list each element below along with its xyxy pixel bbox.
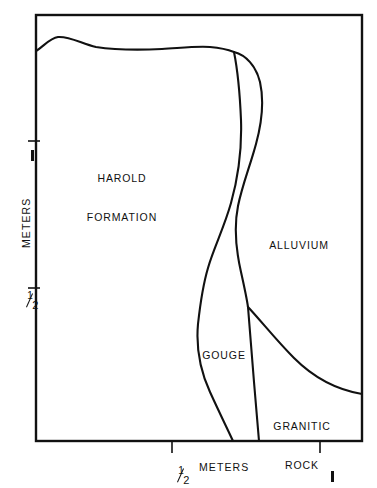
gouge-line-1: GOUGE [198, 349, 250, 362]
x-axis-title: METERS [199, 461, 249, 473]
y-tick-label-half: 1 2 [14, 277, 41, 366]
region-label-harold-formation: HAROLD FORMATION [78, 146, 166, 250]
granitic-rock-line-1: GRANITIC [264, 420, 340, 433]
digit-one-glyph [31, 150, 34, 161]
curve-ground-surface [36, 37, 234, 52]
region-label-gouge: GOUGE [198, 323, 250, 388]
x-tick-label-1 [318, 455, 334, 488]
curve-granitic-rock-contact [248, 307, 362, 394]
digit-one-glyph-x [331, 471, 334, 482]
harold-formation-line-1: HAROLD [78, 172, 166, 185]
fraction-denominator-x: 2 [183, 475, 189, 486]
fraction-one-half-x: 1 2 [178, 466, 192, 488]
alluvium-line-1: ALLUVIUM [262, 239, 336, 252]
y-tick-label-1 [18, 134, 34, 176]
region-label-alluvium: ALLUVIUM [262, 213, 336, 278]
fraction-denominator: 2 [32, 300, 38, 311]
fraction-one-half: 1 2 [27, 291, 41, 313]
y-axis-title: METERS [20, 198, 32, 248]
x-tick-label-half: 1 2 [165, 452, 192, 488]
harold-formation-line-2: FORMATION [78, 211, 166, 224]
